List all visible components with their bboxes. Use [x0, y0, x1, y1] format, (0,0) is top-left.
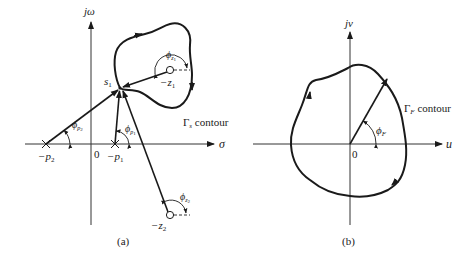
- origin-label-b: 0: [352, 148, 358, 160]
- gamma-s-contour-label: Γs contour: [183, 116, 229, 130]
- vector-z2-to-s1: [123, 91, 168, 212]
- jv-axis-label: jv: [343, 17, 353, 29]
- vector-p2-to-s1: [46, 90, 118, 144]
- origin-label-a: 0: [94, 148, 100, 160]
- vector-p1-to-s1: [115, 91, 120, 144]
- pole-p2-label: −p2: [38, 150, 55, 164]
- angle-phi-p1-label: ϕp1: [125, 123, 136, 136]
- gamma-f-contour: [291, 65, 406, 197]
- zero-z1-label: −z1: [160, 76, 176, 90]
- sigma-axis-label: σ: [219, 137, 226, 151]
- s1-label: s1: [104, 75, 112, 89]
- pole-p1-label: −p1: [107, 150, 124, 164]
- gamma-s-contour: [115, 23, 192, 108]
- angle-arc-p2: [64, 130, 70, 144]
- zero-z2-marker: [166, 211, 173, 218]
- diagram-canvas: jω σ 0 Γs contour s1 −p2 −p1 −z1: [0, 0, 472, 261]
- angle-phi-f-label: ϕF: [376, 124, 387, 138]
- panel-a-s-plane: jω σ 0 Γs contour s1 −p2 −p1 −z1: [25, 5, 229, 248]
- caption-a: (a): [117, 235, 130, 248]
- zero-z2-label: −z2: [151, 219, 167, 233]
- angle-phi-z2-label: ϕz2: [180, 191, 191, 204]
- caption-b: (b): [342, 235, 355, 248]
- panel-b-f-plane: jv u 0 ϕF ΓF contour (b): [253, 17, 452, 248]
- zero-z1-marker: [166, 66, 173, 73]
- test-point-s1: [118, 86, 121, 89]
- jw-axis-label: jω: [82, 5, 95, 17]
- u-axis-label: u: [446, 137, 452, 151]
- contour-direction-arrow-left: [309, 92, 310, 98]
- gamma-f-contour-label: ΓF contour: [404, 102, 451, 116]
- angle-arc-f: [363, 121, 376, 144]
